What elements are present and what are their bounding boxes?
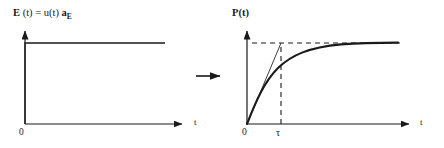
right-plot-group (247, 31, 409, 124)
figure-vector-layer (0, 0, 444, 148)
left-plot-step-curve (25, 43, 165, 124)
left-plot-function-label: E (t) = u(t) aE (13, 8, 72, 21)
right-plot-origin-label: 0 (242, 128, 247, 138)
left-plot-x-axis-label: t (194, 118, 197, 127)
right-plot-function-label: P(t) (232, 8, 249, 19)
left-plot-function-body: (t) = u(t) (20, 7, 62, 18)
right-plot-x-axis-label: t (420, 118, 423, 127)
right-plot-tau-label: τ (276, 128, 280, 138)
figure-container: E (t) = u(t) aE t 0 P(t) t 0 τ (0, 0, 444, 148)
right-plot-response-curve (247, 43, 398, 124)
left-plot-origin-label: 0 (19, 128, 24, 138)
left-plot-function-subscript: E (67, 12, 72, 21)
left-plot-function-E: E (13, 7, 20, 18)
left-plot-group (25, 31, 182, 124)
